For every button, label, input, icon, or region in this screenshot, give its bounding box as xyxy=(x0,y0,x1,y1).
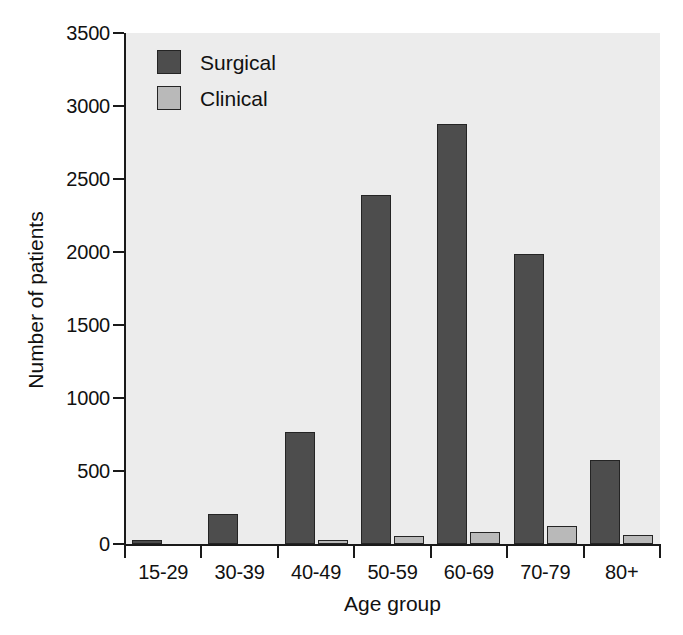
legend-swatch-surgical xyxy=(157,50,181,74)
x-axis-tick-label: 30-39 xyxy=(215,562,265,582)
x-axis-tick-label: 50-59 xyxy=(367,562,417,582)
bar-surgical-60-69 xyxy=(437,124,467,544)
bar-surgical-70-79 xyxy=(514,254,544,544)
y-axis-tick-mark xyxy=(113,32,124,34)
y-axis-tick-label: 500 xyxy=(10,461,110,481)
x-axis-tick-mark xyxy=(583,546,585,558)
bar-clinical-80+ xyxy=(623,535,653,544)
x-axis-tick-mark xyxy=(430,546,432,558)
x-axis-tick-label: 15-29 xyxy=(138,562,188,582)
x-axis-title: Age group xyxy=(125,592,660,616)
x-axis-tick-mark xyxy=(277,546,279,558)
y-axis-line xyxy=(124,33,126,545)
x-axis-tick-mark xyxy=(659,546,661,558)
x-axis-tick-label: 80+ xyxy=(605,562,638,582)
legend-swatch-clinical xyxy=(157,86,181,110)
x-axis-tick-mark xyxy=(200,546,202,558)
y-axis-tick-mark xyxy=(113,324,124,326)
y-axis-tick-label: 0 xyxy=(10,534,110,554)
x-axis-tick-mark xyxy=(506,546,508,558)
x-axis-tick-mark xyxy=(124,546,126,558)
bar-clinical-50-59 xyxy=(394,536,424,544)
y-axis-tick-label: 3500 xyxy=(10,23,110,43)
bar-surgical-50-59 xyxy=(361,195,391,544)
y-axis-tick-mark xyxy=(113,178,124,180)
y-axis-tick-mark xyxy=(113,397,124,399)
legend-label-surgical: Surgical xyxy=(200,52,276,73)
legend-item-surgical: Surgical xyxy=(157,44,367,80)
bar-chart-figure: 0500100015002000250030003500 15-2930-394… xyxy=(0,0,683,635)
x-axis-tick-label: 60-69 xyxy=(444,562,494,582)
legend-item-clinical: Clinical xyxy=(157,80,367,116)
x-axis-line xyxy=(124,544,661,546)
chart-legend: SurgicalClinical xyxy=(157,44,367,116)
y-axis-tick-label: 3000 xyxy=(10,96,110,116)
bar-clinical-60-69 xyxy=(470,532,500,544)
y-axis-tick-mark xyxy=(113,470,124,472)
bar-clinical-70-79 xyxy=(547,526,577,544)
y-axis-tick-mark xyxy=(113,543,124,545)
bar-surgical-80+ xyxy=(590,460,620,544)
x-axis-tick-mark xyxy=(353,546,355,558)
bar-clinical-40-49 xyxy=(318,540,348,544)
x-axis-tick-label: 70-79 xyxy=(520,562,570,582)
bar-surgical-40-49 xyxy=(285,432,315,544)
y-axis-tick-mark xyxy=(113,105,124,107)
legend-label-clinical: Clinical xyxy=(200,88,268,109)
x-axis-tick-label: 40-49 xyxy=(291,562,341,582)
bar-surgical-30-39 xyxy=(208,514,238,544)
y-axis-tick-mark xyxy=(113,251,124,253)
bar-surgical-15-29 xyxy=(132,540,162,544)
y-axis-title: Number of patients xyxy=(24,160,48,440)
